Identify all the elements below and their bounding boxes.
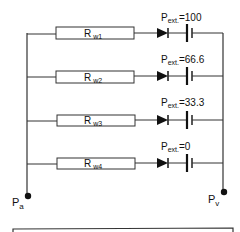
pext-label-2: Pext.=66.6 xyxy=(161,54,205,66)
circuit-diagram: Rw1 Pext.=100 Rw2 Pext.=66.6 Rw3 Pe xyxy=(0,0,240,232)
pext-label-1: Pext.=100 xyxy=(161,12,202,24)
diode-icon xyxy=(157,28,168,38)
branch-3: Rw3 Pext.=33.3 xyxy=(27,97,223,129)
node-pv-dot xyxy=(221,189,227,195)
node-pv-label: Pv xyxy=(208,193,219,208)
branch-4: Rw4 Pext.=0 xyxy=(27,141,223,172)
pext-label-4: Pext.=0 xyxy=(161,141,191,153)
branch-1: Rw1 Pext.=100 xyxy=(27,12,223,42)
node-pa-label: Pa xyxy=(12,196,24,211)
diode-icon xyxy=(157,158,168,168)
diode-icon xyxy=(157,115,168,125)
pext-label-3: Pext.=33.3 xyxy=(161,97,205,109)
branch-2: Rw2 Pext.=66.6 xyxy=(27,54,223,85)
node-pa-dot xyxy=(25,193,31,199)
caption-box-border xyxy=(13,228,233,232)
diode-icon xyxy=(157,71,168,81)
